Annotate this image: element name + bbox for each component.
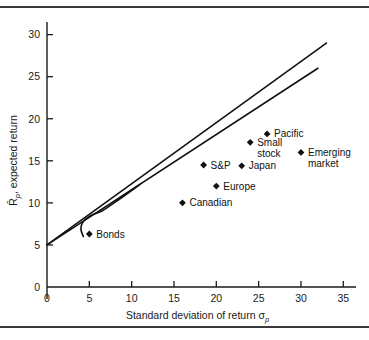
y-axis-title-group: R̄p, expected return <box>7 115 22 206</box>
data-point-label: Canadian <box>189 197 232 208</box>
x-tick-label: 15 <box>168 292 180 304</box>
data-point-s-p: S&P <box>200 160 231 171</box>
x-tick-label: 30 <box>295 292 307 304</box>
diamond-marker-icon <box>179 199 186 206</box>
data-point-canadian: Canadian <box>179 197 232 208</box>
chart-canvas: 051015202530 05101520253035 BondsCanadia… <box>0 0 369 340</box>
risk-return-scatter-figure: 051015202530 05101520253035 BondsCanadia… <box>0 0 369 340</box>
data-point-label: Japan <box>249 160 276 171</box>
x-tick-label: 35 <box>337 292 349 304</box>
y-tick-label: 0 <box>34 281 40 293</box>
y-axis-title: R̄p, expected return <box>7 115 22 206</box>
diamond-marker-icon <box>86 231 93 238</box>
y-tick-label: 25 <box>28 70 40 82</box>
data-point-bonds: Bonds <box>86 229 125 240</box>
data-point-small-stock: Smallstock <box>247 137 282 159</box>
x-axis-title-group: Standard deviation of return σp <box>126 309 269 324</box>
diamond-marker-icon <box>247 139 254 146</box>
x-tick-label: 10 <box>126 292 138 304</box>
y-tick-label: 15 <box>28 155 40 167</box>
x-axis-ticks: 05101520253035 <box>44 281 349 304</box>
y-axis-ticks: 051015202530 <box>28 28 53 292</box>
diamond-marker-icon <box>238 162 245 169</box>
data-point-emerging-market: Emergingmarket <box>298 147 351 169</box>
data-point-label: market <box>308 158 339 169</box>
data-point-label: S&P <box>211 160 231 171</box>
data-point-japan: Japan <box>238 160 276 171</box>
diamond-marker-icon <box>298 149 305 156</box>
data-point-europe: Europe <box>213 181 256 192</box>
diamond-marker-icon <box>213 183 220 190</box>
data-points-group: BondsCanadianEuropeS&PJapanSmallstockPac… <box>86 128 351 239</box>
y-tick-label: 20 <box>28 113 40 125</box>
x-tick-label: 0 <box>44 292 50 304</box>
y-tick-label: 30 <box>28 28 40 40</box>
data-point-label: Emerging <box>308 147 351 158</box>
y-tick-label: 5 <box>34 239 40 251</box>
frontier-lines-group <box>47 43 326 245</box>
data-point-label: Bonds <box>96 229 124 240</box>
data-point-label: stock <box>257 148 281 159</box>
capital-market-line-upper <box>47 43 326 245</box>
x-tick-label: 5 <box>86 292 92 304</box>
data-point-label: Pacific <box>274 128 303 139</box>
data-point-label: Europe <box>223 181 256 192</box>
y-tick-label: 10 <box>28 197 40 209</box>
x-tick-label: 25 <box>253 292 265 304</box>
x-tick-label: 20 <box>210 292 222 304</box>
x-axis-title: Standard deviation of return σp <box>126 309 269 324</box>
diamond-marker-icon <box>200 162 207 169</box>
